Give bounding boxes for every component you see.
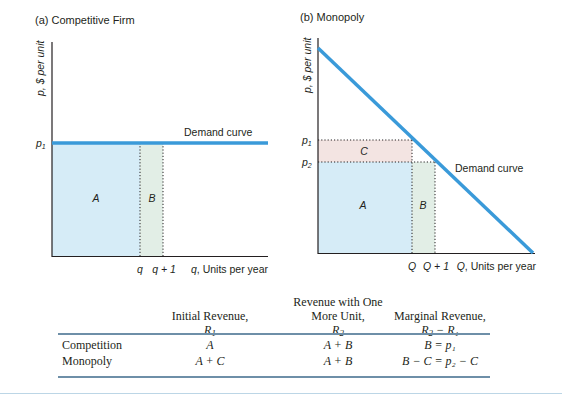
table-top-rule (58, 333, 490, 335)
Q-tick-label: Q (408, 260, 416, 272)
svg-text:p, $ per unit: p, $ per unit (34, 39, 46, 97)
panel-a-title: (a) Competitive Firm (35, 14, 135, 26)
area-b-label: B (148, 192, 155, 204)
page-divider (0, 393, 562, 394)
table-bottom-rule (58, 376, 490, 378)
cell-marginal: B = p₁ (380, 338, 500, 353)
cell-marginal: B − C = p₂ − C (380, 354, 500, 369)
header-initial-revenue: Initial Revenue, R1 (150, 309, 270, 340)
cell-one-more: A + B (298, 354, 378, 369)
Q1-tick-label: Q + 1 (423, 260, 449, 272)
y-axis-label-b: p, $ per unit (301, 36, 313, 94)
cell-initial: A + C (170, 354, 250, 369)
panel-b-monopoly: (b) Monopoly Demand curve p, $ per unit … (300, 11, 536, 272)
q-tick-label: q (137, 263, 143, 275)
demand-label-b: Demand curve (455, 162, 523, 174)
p1-label-a: p1 (35, 137, 46, 150)
area-c-label: C (360, 145, 368, 157)
row-label: Monopoly (62, 354, 112, 369)
x-axis-label-b: Q, Units per year (457, 260, 537, 272)
panel-a-competitive-firm: (a) Competitive Firm Demand curve p, $ p… (34, 14, 268, 275)
row-label: Competition (62, 338, 122, 353)
panel-b-title: (b) Monopoly (300, 11, 365, 23)
demand-label-a: Demand curve (184, 126, 252, 138)
area-a-label-b: A (358, 199, 366, 211)
q1-tick-label: q + 1 (152, 263, 176, 275)
p1-label-b: p1 (301, 134, 312, 147)
header-marginal-revenue: Marginal Revenue, R2 − R₁ (370, 309, 510, 340)
area-a-label: A (91, 192, 99, 204)
cell-initial: A (170, 338, 250, 353)
cell-one-more: A + B (298, 338, 378, 353)
y-axis-label-a: p, $ per unit (34, 39, 46, 97)
svg-text:p, $ per unit: p, $ per unit (301, 36, 313, 94)
area-b-label-b: B (419, 199, 426, 211)
p2-label-b: p2 (301, 156, 312, 169)
x-axis-label-a: q, Units per year (191, 263, 269, 275)
